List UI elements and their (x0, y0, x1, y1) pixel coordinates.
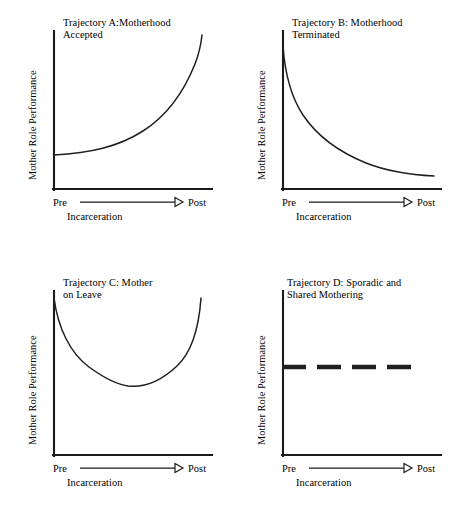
panel-title-a: Trajectory A:Motherhood Accepted (63, 17, 172, 40)
panel-trajectory-a: Trajectory A:Motherhood Accepted Mother … (0, 2, 229, 234)
x-axis-arrow: Pre Post (53, 463, 206, 474)
panel-title-line1: Trajectory B: Motherhood (292, 17, 403, 28)
trajectory-curve-c (54, 298, 201, 386)
axes-b (282, 31, 441, 190)
right-arrow-open-triangle-icon (175, 464, 183, 473)
x-axis-arrow: Pre Post (53, 197, 206, 208)
x-axis-start-label: Pre (282, 197, 296, 208)
panel-title-line2: on Leave (63, 289, 102, 300)
panel-title-line1: Trajectory A:Motherhood (63, 17, 172, 28)
axes-c (53, 291, 212, 456)
panel-trajectory-d: Trajectory D: Sporadic and Shared Mother… (229, 262, 458, 494)
x-axis-end-label: Post (417, 197, 435, 208)
x-axis-caption: Incarceration (67, 211, 123, 222)
trajectory-curve-a (54, 35, 202, 155)
x-axis-caption: Incarceration (67, 477, 123, 488)
x-axis-start-label: Pre (282, 463, 296, 474)
x-axis-arrow: Pre Post (282, 197, 435, 208)
axes-a (53, 31, 212, 190)
x-axis-start-label: Pre (53, 463, 67, 474)
panel-title-c: Trajectory C: Mother on Leave (63, 277, 153, 300)
y-axis-label: Mother Role Performance (256, 70, 267, 180)
right-arrow-open-triangle-icon (404, 198, 412, 207)
panel-title-d: Trajectory D: Sporadic and Shared Mother… (287, 277, 402, 300)
x-axis-end-label: Post (188, 197, 206, 208)
x-axis-caption: Incarceration (296, 211, 352, 222)
y-axis-label: Mother Role Performance (27, 70, 38, 180)
x-axis-caption: Incarceration (296, 477, 352, 488)
y-axis-label: Mother Role Performance (27, 335, 38, 445)
trajectory-curve-b (283, 46, 434, 176)
panel-title-line2: Accepted (63, 29, 103, 40)
panel-title-line1: Trajectory C: Mother (63, 277, 153, 288)
panel-title-line1: Trajectory D: Sporadic and (287, 277, 402, 288)
trajectory-figure-grid: Trajectory A:Motherhood Accepted Mother … (0, 0, 459, 518)
y-axis-label: Mother Role Performance (256, 335, 267, 445)
panel-title-b: Trajectory B: Motherhood Terminated (292, 17, 403, 40)
x-axis-end-label: Post (417, 463, 435, 474)
x-axis-start-label: Pre (53, 197, 67, 208)
right-arrow-open-triangle-icon (404, 464, 412, 473)
panel-trajectory-c: Trajectory C: Mother on Leave Mother Rol… (0, 262, 229, 494)
panel-title-line2: Shared Mothering (287, 289, 363, 300)
axes-d (282, 291, 441, 456)
x-axis-arrow: Pre Post (282, 463, 435, 474)
x-axis-end-label: Post (188, 463, 206, 474)
panel-trajectory-b: Trajectory B: Motherhood Terminated Moth… (229, 2, 458, 234)
right-arrow-open-triangle-icon (175, 198, 183, 207)
panel-title-line2: Terminated (292, 29, 340, 40)
